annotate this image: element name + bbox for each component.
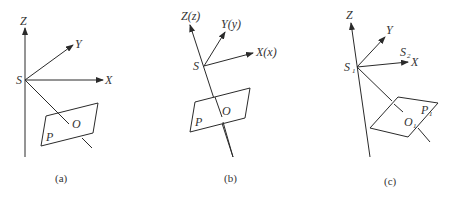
label-p1-sub: 1 bbox=[429, 110, 433, 118]
label-x: X(x) bbox=[255, 45, 277, 59]
label-s: S bbox=[16, 73, 22, 87]
label-p: P bbox=[194, 115, 203, 129]
z-axis bbox=[190, 25, 233, 157]
caption-c: (c) bbox=[384, 175, 397, 188]
y-axis bbox=[357, 37, 385, 67]
optical-axis-continuation bbox=[223, 122, 233, 157]
panel-b: Z(z) Y(y) X(x) S O P (b) bbox=[181, 9, 277, 185]
label-p: P bbox=[45, 130, 54, 144]
label-z: Z(z) bbox=[181, 9, 200, 23]
label-y: Y bbox=[386, 23, 394, 37]
optical-axis-continuation bbox=[82, 138, 92, 148]
panel-a: Z Y X S O P (a) bbox=[16, 14, 113, 185]
optical-axis bbox=[357, 67, 392, 101]
label-s1-sub: 1 bbox=[352, 67, 356, 75]
y-axis bbox=[25, 45, 73, 80]
label-o: O bbox=[72, 117, 81, 131]
z-axis bbox=[351, 23, 370, 157]
optical-axis-continuation bbox=[418, 128, 430, 142]
label-o: O bbox=[222, 104, 231, 118]
label-x: X bbox=[104, 73, 113, 87]
caption-a: (a) bbox=[55, 172, 68, 185]
label-z: Z bbox=[20, 14, 27, 28]
label-y: Y(y) bbox=[221, 17, 241, 31]
label-p1: P bbox=[420, 103, 429, 117]
label-s: S bbox=[193, 59, 199, 73]
x-axis bbox=[357, 62, 408, 67]
label-s2-sub: 2 bbox=[407, 52, 411, 60]
label-o1: O bbox=[404, 115, 413, 129]
label-x: X bbox=[410, 55, 419, 69]
panel-c: Z Y X S 1 S 2 O 1 P 1 (c) bbox=[344, 8, 438, 188]
label-s2: S bbox=[400, 45, 406, 59]
label-y: Y bbox=[75, 37, 83, 51]
label-o1-sub: 1 bbox=[413, 122, 417, 130]
figure-canvas: Z Y X S O P (a) Z(z) Y(y) X(x) S O P (b)… bbox=[0, 0, 453, 199]
label-s1: S bbox=[344, 60, 350, 74]
label-z: Z bbox=[346, 8, 353, 22]
caption-b: (b) bbox=[224, 172, 237, 185]
